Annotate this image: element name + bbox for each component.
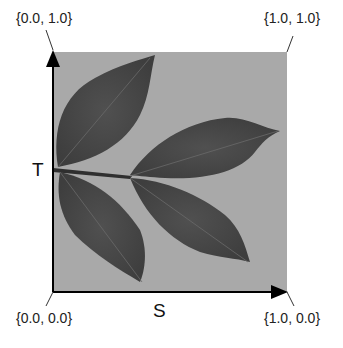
s-axis-label: S: [153, 300, 166, 322]
t-axis-label: T: [32, 159, 44, 181]
leader-top-left: [46, 30, 53, 50]
corner-label-top-right: {1.0, 1.0}: [264, 10, 320, 26]
diagram-graphic: [0, 0, 343, 348]
leader-bottom-left: [46, 292, 53, 306]
leader-bottom-right: [287, 292, 294, 306]
corner-label-bottom-left: {0.0, 0.0}: [16, 310, 72, 326]
leader-top-right: [287, 36, 293, 52]
corner-label-top-left: {0.0, 1.0}: [16, 10, 72, 26]
texture-coordinate-diagram: {0.0, 1.0} {1.0, 1.0} {0.0, 0.0} {1.0, 0…: [0, 0, 343, 348]
corner-label-bottom-right: {1.0, 0.0}: [264, 310, 320, 326]
